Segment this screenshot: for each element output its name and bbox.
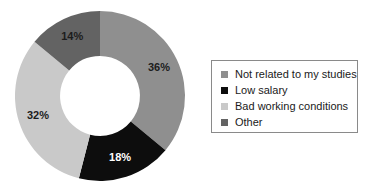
donut-chart-figure: 36%18%32%14% Not related to my studies L… <box>0 0 377 192</box>
legend-swatch-icon <box>221 119 228 126</box>
legend-item-not-related-to-my-studies[interactable]: Not related to my studies <box>221 66 357 82</box>
legend-item-label: Not related to my studies <box>235 69 357 80</box>
donut-slice-value-label: 32% <box>27 109 49 121</box>
chart-legend: Not related to my studies Low salary Bad… <box>211 60 358 133</box>
legend-item-label: Bad working conditions <box>235 101 348 112</box>
legend-swatch-icon <box>221 71 228 78</box>
legend-item-label: Other <box>235 117 263 128</box>
legend-item-bad-working-conditions[interactable]: Bad working conditions <box>221 98 357 114</box>
donut-slice-value-label: 14% <box>61 30 83 42</box>
legend-swatch-icon <box>221 87 228 94</box>
donut-svg: 36%18%32%14% <box>0 0 200 192</box>
legend-swatch-icon <box>221 103 228 110</box>
legend-item-low-salary[interactable]: Low salary <box>221 82 357 98</box>
legend-item-label: Low salary <box>235 85 288 96</box>
donut-slice-value-label: 18% <box>109 151 131 163</box>
donut-plot-area: 36%18%32%14% <box>0 0 200 192</box>
donut-slice-value-label: 36% <box>148 61 170 73</box>
donut-slice-group <box>15 11 185 181</box>
donut-slice[interactable] <box>100 11 185 150</box>
legend-item-other[interactable]: Other <box>221 114 357 130</box>
